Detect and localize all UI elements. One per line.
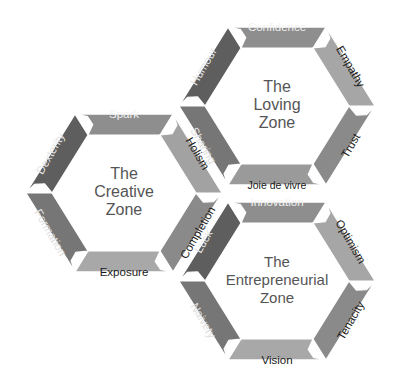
segment-empathy: Empathy xyxy=(313,27,375,106)
segment-innovation: Innovation xyxy=(228,196,326,223)
segment-label: Exposure xyxy=(100,266,149,278)
segment-trust: Trust xyxy=(313,106,375,185)
segment-vision: Vision xyxy=(228,339,326,366)
segment-naivety: Naivety xyxy=(179,281,241,360)
segment-tenacity: Tenacity xyxy=(313,281,375,360)
segment-exposure: Exposure xyxy=(75,251,173,278)
segment-humour: Humour xyxy=(179,27,241,106)
segment-label: Innovation xyxy=(250,196,303,208)
segment-joie-de-vivre: Joie de vivre xyxy=(228,164,326,191)
segment-label: Vision xyxy=(261,354,292,366)
segment-label: Confidence xyxy=(248,21,306,33)
segment-label: Spark xyxy=(109,108,139,120)
zones-hexagon-diagram: ConfidenceEmpathyTrustJoie de vivreShari… xyxy=(0,0,400,379)
segment-confidence: Confidence xyxy=(228,21,326,48)
segment-dexterity: Dexterity xyxy=(26,114,88,193)
segment-formation: Formation xyxy=(26,193,88,272)
segment-optimism: Optimism xyxy=(313,202,375,281)
zone-title: TheLovingZone xyxy=(253,78,300,131)
segment-label: Joie de vivre xyxy=(248,179,307,191)
zone-title: TheCreativeZone xyxy=(94,165,154,218)
zone-title: TheEntrepreneurialZone xyxy=(226,253,329,306)
diagram-canvas: ConfidenceEmpathyTrustJoie de vivreShari… xyxy=(0,0,400,379)
segment-spark: Spark xyxy=(75,108,173,135)
